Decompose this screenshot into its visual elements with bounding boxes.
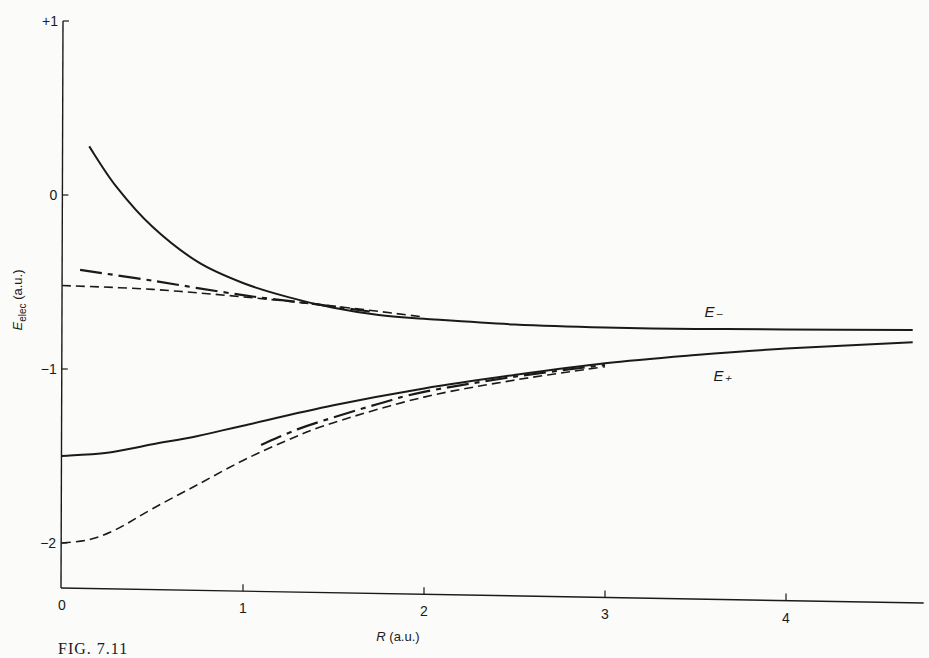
curve-label-e-minus: E₋	[705, 303, 723, 320]
x-tick-label: 4	[782, 610, 790, 626]
y-tick-label: 0	[50, 187, 58, 203]
x-tick-label: 0	[58, 597, 66, 613]
x-axis-line	[61, 588, 924, 603]
y-tick-label: −2	[40, 535, 56, 551]
figure-caption: FIG. 7.11	[58, 640, 128, 658]
curve-e-plus-dashdot	[261, 365, 605, 445]
curve-e-plus-dashed	[62, 367, 605, 543]
axes	[61, 21, 924, 603]
curve-e-minus-dashed	[62, 286, 424, 318]
x-axis-label: R (a.u.)	[376, 629, 419, 644]
y-tick-label: +1	[42, 13, 58, 29]
x-tick-label: 3	[601, 606, 609, 622]
curves	[62, 146, 913, 543]
x-tick-label: 2	[420, 603, 428, 619]
y-axis-label: Eelec (a.u.)	[10, 270, 28, 331]
curve-e-minus	[89, 146, 913, 330]
y-axis-line	[61, 21, 63, 588]
curve-e-plus	[62, 342, 913, 456]
curve-label-e-plus: E₊	[714, 367, 732, 384]
y-tick-label: −1	[41, 361, 57, 377]
x-tick-label: 1	[239, 600, 247, 616]
